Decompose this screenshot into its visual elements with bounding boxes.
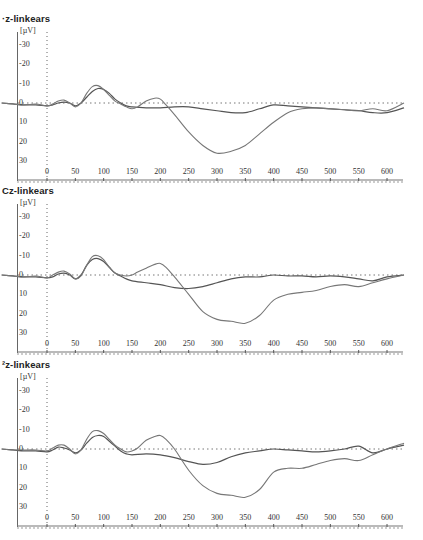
waveform-condition-a <box>2 258 404 288</box>
y-tick-label: -20 <box>19 231 30 240</box>
x-tick-label: 200 <box>154 167 166 176</box>
x-tick-label: 600 <box>381 513 393 522</box>
x-tick-label: 250 <box>183 167 195 176</box>
panel-title: ·z-linkears <box>2 13 50 24</box>
y-tick-label: -30 <box>19 386 30 395</box>
x-tick-label: 450 <box>296 339 308 348</box>
y-unit-label: [µV] <box>20 198 36 207</box>
x-tick-label: 150 <box>126 339 138 348</box>
waveform-plot <box>0 184 423 358</box>
x-tick-label: 550 <box>353 167 365 176</box>
y-tick-label: 30 <box>19 502 27 511</box>
panel-title: Cz-linkears <box>2 185 54 196</box>
waveform-condition-b <box>2 85 404 153</box>
y-tick-label: 10 <box>19 117 27 126</box>
x-tick-label: 500 <box>324 339 336 348</box>
x-tick-label: 300 <box>211 513 223 522</box>
x-tick-label: 400 <box>268 167 280 176</box>
waveform-plot <box>0 358 423 532</box>
x-tick-label: 50 <box>71 513 79 522</box>
waveform-condition-a <box>2 435 404 464</box>
x-tick-label: 0 <box>45 339 49 348</box>
x-tick-label: 600 <box>381 339 393 348</box>
erp-panel-0: ·z-linkears[µV]-30-20-100102030050100150… <box>0 12 423 186</box>
y-tick-label: 0 <box>19 98 23 107</box>
erp-panel-1: Cz-linkears[µV]-30-20-100102030050100150… <box>0 184 423 358</box>
x-tick-label: 550 <box>353 513 365 522</box>
y-tick-label: -20 <box>19 59 30 68</box>
x-tick-label: 0 <box>45 167 49 176</box>
x-tick-label: 50 <box>71 167 79 176</box>
x-tick-label: 0 <box>45 513 49 522</box>
y-unit-label: [µV] <box>20 372 36 381</box>
x-tick-label: 250 <box>183 339 195 348</box>
x-tick-label: 450 <box>296 167 308 176</box>
x-tick-label: 300 <box>211 339 223 348</box>
x-tick-label: 600 <box>381 167 393 176</box>
y-tick-label: -10 <box>19 425 30 434</box>
waveform-condition-b <box>2 255 404 323</box>
y-tick-label: -30 <box>19 40 30 49</box>
y-tick-label: 20 <box>19 309 27 318</box>
y-tick-label: -30 <box>19 212 30 221</box>
erp-panel-2: ²z-linkears[µV]-30-20-100102030050100150… <box>0 358 423 532</box>
x-tick-label: 100 <box>98 167 110 176</box>
y-tick-label: 30 <box>19 156 27 165</box>
x-tick-label: 400 <box>268 339 280 348</box>
x-tick-label: 200 <box>154 513 166 522</box>
y-tick-label: 0 <box>19 270 23 279</box>
x-tick-label: 400 <box>268 513 280 522</box>
y-unit-label: [µV] <box>20 26 36 35</box>
y-tick-label: 20 <box>19 137 27 146</box>
panel-title: ²z-linkears <box>2 359 50 370</box>
x-tick-label: 100 <box>98 513 110 522</box>
x-tick-label: 350 <box>239 513 251 522</box>
x-tick-label: 500 <box>324 167 336 176</box>
y-tick-label: 30 <box>19 328 27 337</box>
x-tick-label: 150 <box>126 167 138 176</box>
waveform-plot <box>0 12 423 186</box>
y-tick-label: -10 <box>19 79 30 88</box>
y-tick-label: 20 <box>19 483 27 492</box>
y-tick-label: -10 <box>19 251 30 260</box>
y-tick-label: -20 <box>19 405 30 414</box>
x-tick-label: 500 <box>324 513 336 522</box>
x-tick-label: 450 <box>296 513 308 522</box>
x-tick-label: 550 <box>353 339 365 348</box>
y-tick-label: 0 <box>19 444 23 453</box>
x-tick-label: 50 <box>71 339 79 348</box>
y-tick-label: 10 <box>19 289 27 298</box>
x-tick-label: 200 <box>154 339 166 348</box>
x-tick-label: 350 <box>239 339 251 348</box>
x-tick-label: 150 <box>126 513 138 522</box>
x-tick-label: 250 <box>183 513 195 522</box>
x-tick-label: 100 <box>98 339 110 348</box>
y-tick-label: 10 <box>19 463 27 472</box>
x-tick-label: 350 <box>239 167 251 176</box>
x-tick-label: 300 <box>211 167 223 176</box>
